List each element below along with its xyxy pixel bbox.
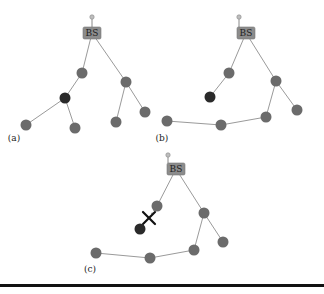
sensor-node	[77, 68, 88, 79]
failed-sensor-node	[135, 224, 146, 235]
failed-sensor-node	[60, 93, 71, 104]
link	[221, 117, 266, 125]
sensor-node	[261, 112, 272, 123]
sensor-node	[21, 120, 32, 131]
base-station-label: BS	[170, 164, 183, 174]
panel-label: (b)	[156, 133, 169, 143]
panel-a: BS(a)	[8, 15, 151, 143]
network-diagram: BS(a)BS(b)BS(c)	[0, 0, 324, 294]
panel-c: BS(c)	[84, 153, 229, 274]
antenna-icon	[166, 153, 170, 157]
sensor-node	[189, 245, 200, 256]
antenna-icon	[237, 15, 241, 19]
base-station-label: BS	[86, 28, 99, 38]
sensor-node	[271, 76, 282, 87]
link	[194, 213, 204, 250]
link	[167, 121, 221, 125]
base-station-label: BS	[240, 28, 253, 38]
sensor-node	[152, 201, 163, 212]
sensor-node	[121, 77, 132, 88]
link	[92, 33, 126, 82]
sensor-node	[199, 208, 210, 219]
link	[176, 169, 204, 213]
link	[26, 98, 65, 125]
panel-label: (c)	[84, 264, 96, 274]
link-failure-cross-icon	[143, 212, 155, 224]
sensor-node	[140, 107, 151, 118]
link	[150, 250, 194, 258]
sensor-node	[216, 120, 227, 131]
panel-b: BS(b)	[156, 15, 303, 143]
bottom-rule	[0, 284, 324, 287]
link	[246, 33, 276, 81]
sensor-node	[292, 105, 303, 116]
sensor-node	[111, 117, 122, 128]
sensor-node	[145, 253, 156, 264]
failed-sensor-node	[205, 92, 216, 103]
link	[266, 81, 276, 117]
antenna-icon	[90, 15, 94, 19]
sensor-node	[224, 68, 235, 79]
sensor-node	[162, 116, 173, 127]
sensor-node	[70, 123, 81, 134]
link	[96, 253, 150, 258]
sensor-node	[91, 248, 102, 259]
panel-label: (a)	[8, 133, 20, 143]
link	[116, 82, 126, 122]
sensor-node	[218, 237, 229, 248]
